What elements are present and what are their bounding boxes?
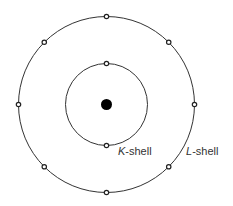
- l-shell-electron: [167, 40, 171, 44]
- l-shell-electron: [104, 190, 108, 194]
- l-shell-electron: [192, 102, 196, 106]
- l-shell-electron: [167, 165, 171, 169]
- l-shell-electron: [42, 40, 46, 44]
- l-shell-electron: [42, 165, 46, 169]
- k-shell-electron: [104, 61, 108, 65]
- l-shell-electron: [104, 14, 108, 18]
- l-shell-electron: [16, 102, 20, 106]
- k-shell-electron: [104, 143, 108, 147]
- k-shell-label: K-shell: [118, 146, 152, 157]
- nucleus: [101, 99, 112, 110]
- l-shell-label: L-shell: [186, 146, 218, 157]
- atom-diagram: [0, 0, 233, 206]
- l-shell-suffix: -shell: [192, 145, 218, 157]
- k-shell-suffix: -shell: [125, 145, 151, 157]
